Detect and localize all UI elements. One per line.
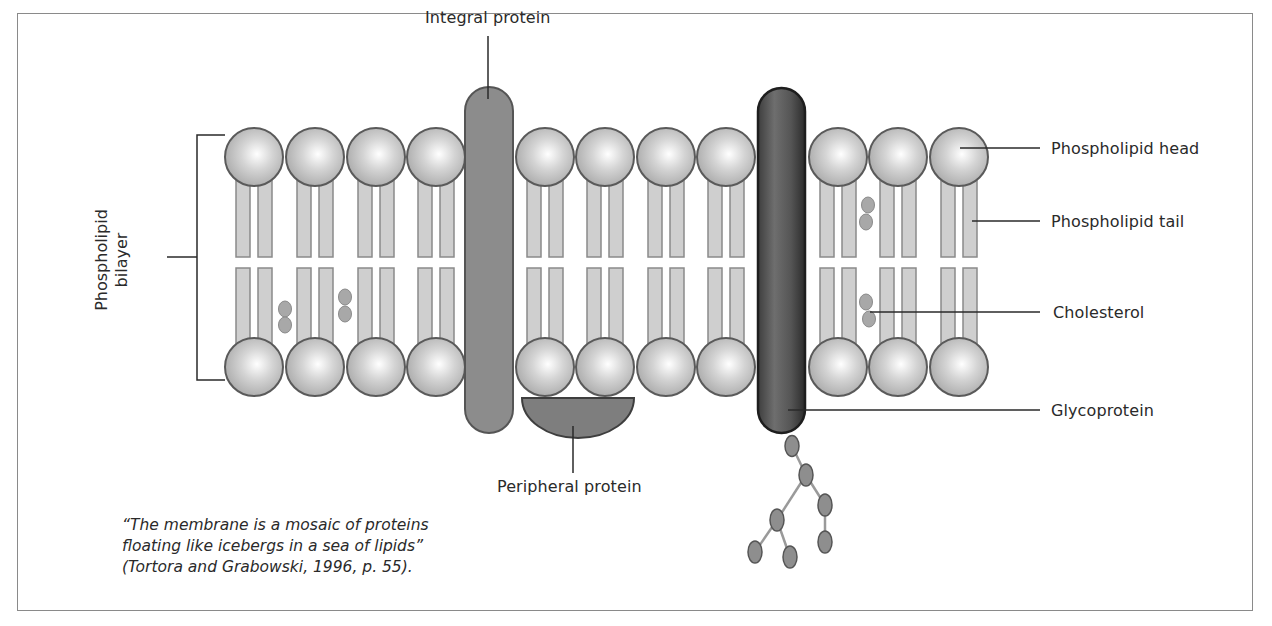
phospholipid-head <box>225 338 283 396</box>
phospholipid-head <box>869 338 927 396</box>
phospholipid-head <box>809 128 867 186</box>
phospholipid-tail <box>842 268 856 345</box>
phospholipid-head <box>516 128 574 186</box>
phospholipid-tail <box>648 180 662 257</box>
phospholipid-head <box>286 128 344 186</box>
phospholipid-tail <box>418 268 432 345</box>
phospholipid-tail <box>418 180 432 257</box>
phospholipid-head <box>516 338 574 396</box>
phospholipid-tail <box>440 180 454 257</box>
mosaic-quote: “The membrane is a mosaic of proteins fl… <box>122 515 429 578</box>
label-peripheral-protein: Peripheral protein <box>497 477 642 496</box>
phospholipid-tail <box>648 268 662 345</box>
phospholipid-tail <box>440 268 454 345</box>
phospholipid-tail <box>963 180 977 257</box>
phospholipid-tail <box>708 180 722 257</box>
phospholipid-head <box>286 338 344 396</box>
phospholipid-head <box>637 338 695 396</box>
phospholipid-tail <box>842 180 856 257</box>
phospholipid-tail <box>941 180 955 257</box>
peripheral-protein <box>522 398 634 438</box>
phospholipid-tail <box>527 268 541 345</box>
phospholipid-tail <box>730 268 744 345</box>
phospholipid-tail <box>963 268 977 345</box>
phospholipid-head <box>809 338 867 396</box>
phospholipid-head <box>697 338 755 396</box>
phospholipid-head <box>930 128 988 186</box>
quote-line2: floating like icebergs in a sea of lipid… <box>122 536 429 557</box>
phospholipid-tail <box>380 180 394 257</box>
phospholipid-tail <box>527 180 541 257</box>
phospholipid-head <box>869 128 927 186</box>
quote-line1: “The membrane is a mosaic of proteins <box>122 515 429 536</box>
label-phospholipid-head: Phospholipid head <box>1051 139 1199 158</box>
phospholipid-tail <box>941 268 955 345</box>
phospholipid-tail <box>670 180 684 257</box>
phospholipid-tail <box>358 268 372 345</box>
phospholipid-tail <box>708 268 722 345</box>
phospholipid-head <box>930 338 988 396</box>
phospholipid-head <box>225 128 283 186</box>
phospholipid-tail <box>258 180 272 257</box>
integral-protein <box>465 87 513 433</box>
label-phospholipid-tail: Phospholipid tail <box>1051 212 1184 231</box>
phospholipid-tail <box>609 180 623 257</box>
phospholipid-tail <box>730 180 744 257</box>
phospholipid-head <box>637 128 695 186</box>
phospholipid-tail <box>609 268 623 345</box>
phospholipid-tail <box>236 180 250 257</box>
quote-citation: (Tortora and Grabowski, 1996, p. 55). <box>122 557 429 578</box>
phospholipid-tail <box>236 268 250 345</box>
glycoprotein-sugar-chain <box>755 446 825 557</box>
phospholipid-tail <box>380 268 394 345</box>
phospholipid-tail <box>358 180 372 257</box>
phospholipid-tail <box>587 268 601 345</box>
bilayer-bracket <box>197 135 225 380</box>
phospholipid-tail <box>902 268 916 345</box>
label-cholesterol: Cholesterol <box>1053 303 1144 322</box>
phospholipid-tail <box>670 268 684 345</box>
phospholipid-head <box>576 128 634 186</box>
phospholipid-tail <box>297 268 311 345</box>
bilayer-label-line1: Phospholipid <box>92 209 112 311</box>
phospholipid-head <box>407 128 465 186</box>
phospholipid-tail <box>880 180 894 257</box>
phospholipid-head <box>347 338 405 396</box>
bilayer-label-line2: bilayer <box>112 209 132 311</box>
phospholipid-tail <box>587 180 601 257</box>
phospholipid-head <box>697 128 755 186</box>
phospholipid-tail <box>258 268 272 345</box>
glycoprotein <box>758 88 805 433</box>
phospholipid-heads <box>225 128 988 396</box>
phospholipid-head <box>576 338 634 396</box>
phospholipid-tail <box>902 180 916 257</box>
phospholipid-tail <box>549 180 563 257</box>
label-integral-protein: Integral protein <box>425 8 551 27</box>
phospholipid-tail <box>820 180 834 257</box>
phospholipid-tail <box>880 268 894 345</box>
phospholipid-tail <box>820 268 834 345</box>
phospholipid-tail <box>319 180 333 257</box>
label-phospholipid-bilayer: Phospholipid bilayer <box>92 209 132 311</box>
label-glycoprotein: Glycoprotein <box>1051 401 1154 420</box>
phospholipid-head <box>347 128 405 186</box>
phospholipid-tail <box>297 180 311 257</box>
phospholipid-tail <box>549 268 563 345</box>
phospholipid-head <box>407 338 465 396</box>
phospholipid-tail <box>319 268 333 345</box>
